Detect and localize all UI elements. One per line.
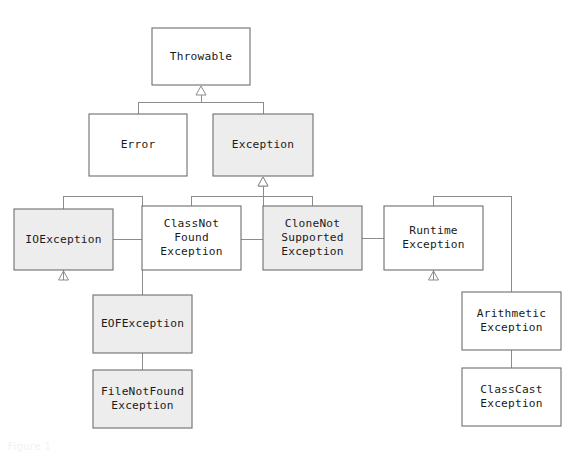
class-box-arithmetic[interactable]: ArithmeticException [462,292,561,350]
class-box-throwable[interactable]: Throwable [152,28,250,85]
uml-canvas: ThrowableErrorExceptionIOExceptionClassN… [0,0,572,458]
class-box-classnotfound[interactable]: ClassNotFoundException [142,206,241,270]
class-box-label: Runtime [409,224,458,237]
class-box-label: Arithmetic [477,307,546,320]
bottom-ghost-caption: Figure 1 [8,441,51,452]
class-box-eofexception[interactable]: EOFException [93,295,192,353]
class-box-label: ClassCast [480,383,542,396]
class-box-label: Exception [480,397,542,410]
class-box-label: IOException [25,233,101,246]
class-box-label: Exception [402,238,464,251]
class-box-filenotfound[interactable]: FileNotFoundException [93,370,192,428]
class-box-exception[interactable]: Exception [213,114,313,176]
class-box-clonenotsupported[interactable]: CloneNotSupportedException [263,206,362,270]
class-box-label: Exception [232,138,294,151]
class-box-label: Exception [480,321,542,334]
class-box-ioexception[interactable]: IOException [14,209,113,270]
class-box-label: ClassNot [164,217,219,230]
class-box-label: EOFException [101,317,184,330]
class-box-label: Supported [281,231,343,244]
node-layer: ThrowableErrorExceptionIOExceptionClassN… [14,28,561,428]
class-box-classcast[interactable]: ClassCastException [462,368,561,426]
class-box-label: Throwable [170,50,232,63]
class-box-runtimeexception[interactable]: RuntimeException [384,206,483,270]
class-box-label: Found [174,231,209,244]
class-box-label: Error [121,138,156,151]
class-box-label: FileNotFound [101,385,184,398]
class-box-label: Exception [281,245,343,258]
class-box-error[interactable]: Error [89,114,187,176]
class-box-label: CloneNot [285,217,340,230]
class-box-label: Exception [111,399,173,412]
class-box-label: Exception [160,245,222,258]
exception-hierarchy-diagram: ThrowableErrorExceptionIOExceptionClassN… [0,0,572,458]
